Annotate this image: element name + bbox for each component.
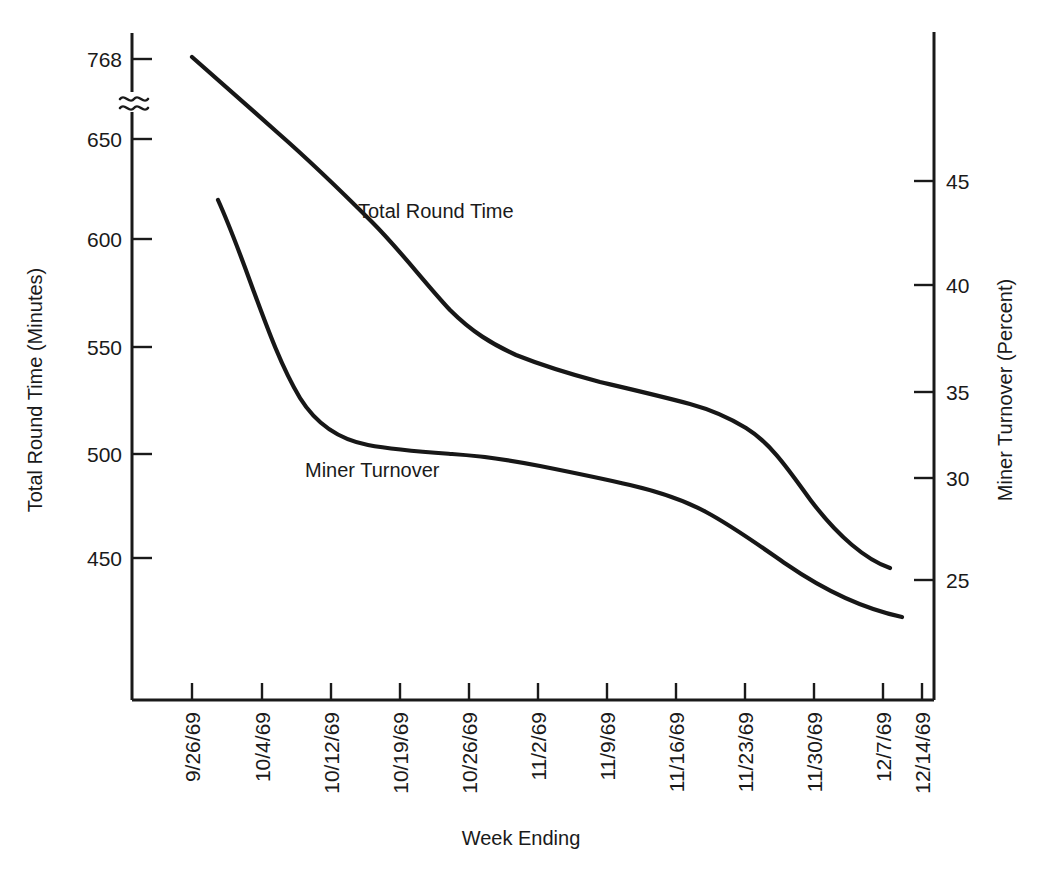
left-tick-label-500: 500 bbox=[87, 443, 122, 466]
series-label-total-round-time: Total Round Time bbox=[358, 200, 514, 222]
left-tick-label-600: 600 bbox=[87, 228, 122, 251]
x-axis-title: Week Ending bbox=[462, 827, 581, 849]
series-line-total-round-time bbox=[192, 57, 890, 568]
x-tick-label-6: 11/9/69 bbox=[596, 712, 619, 781]
line-chart: 768 650 600 550 500 450 Total Round Time… bbox=[0, 0, 1042, 871]
x-tick-label-11: 12/14/69 bbox=[911, 712, 934, 794]
x-tick-label-1: 10/4/69 bbox=[251, 712, 274, 782]
left-axis-group: 768 650 600 550 500 450 Total Round Time… bbox=[24, 33, 152, 700]
x-tick-label-4: 10/26/69 bbox=[458, 712, 481, 794]
x-tick-label-7: 11/16/69 bbox=[665, 712, 688, 792]
right-tick-label-40: 40 bbox=[946, 274, 969, 297]
series-line-miner-turnover bbox=[218, 200, 902, 617]
x-tick-label-9: 11/30/69 bbox=[803, 712, 826, 792]
x-tick-label-3: 10/19/69 bbox=[389, 712, 412, 794]
x-tick-label-10: 12/7/69 bbox=[872, 712, 895, 782]
x-tick-label-8: 11/23/69 bbox=[734, 712, 757, 792]
axis-break-icon bbox=[120, 97, 148, 109]
series-group bbox=[192, 57, 902, 617]
right-tick-label-30: 30 bbox=[946, 467, 969, 490]
series-label-miner-turnover: Miner Turnover bbox=[305, 459, 440, 481]
left-tick-label-550: 550 bbox=[87, 336, 122, 359]
right-tick-label-35: 35 bbox=[946, 381, 969, 404]
right-tick-label-25: 25 bbox=[946, 569, 969, 592]
right-tick-label-45: 45 bbox=[946, 170, 969, 193]
left-tick-label-450: 450 bbox=[87, 547, 122, 570]
right-axis-title: Miner Turnover (Percent) bbox=[994, 279, 1016, 501]
left-tick-label-650: 650 bbox=[87, 128, 122, 151]
left-axis-title: Total Round Time (Minutes) bbox=[24, 268, 46, 513]
x-tick-label-2: 10/12/69 bbox=[320, 712, 343, 794]
right-axis-group: 45 40 35 30 25 Miner Turnover (Percent) bbox=[914, 32, 1016, 700]
left-tick-label-768: 768 bbox=[87, 48, 122, 71]
figure-container: 768 650 600 550 500 450 Total Round Time… bbox=[0, 0, 1042, 871]
x-tick-label-0: 9/26/69 bbox=[181, 712, 204, 782]
x-tick-label-5: 11/2/69 bbox=[527, 712, 550, 781]
bottom-axis-group: 9/26/69 10/4/69 10/12/69 10/19/69 10/26/… bbox=[132, 683, 934, 849]
